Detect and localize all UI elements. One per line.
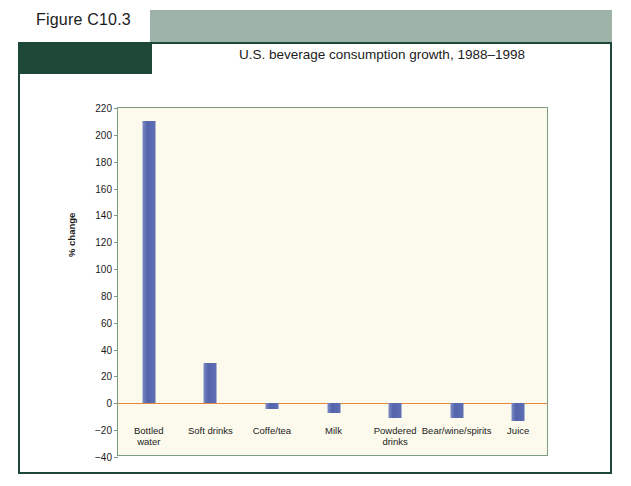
figure-label: Figure C10.3 <box>36 11 131 29</box>
y-axis-tick-label: 160 <box>72 183 112 194</box>
y-axis-tick-label: 180 <box>72 156 112 167</box>
plot-area: 220200180160140120100806040200−20−40Bott… <box>117 107 548 456</box>
y-axis-tick-mark <box>114 376 118 377</box>
y-axis-tick-mark <box>114 296 118 297</box>
bar <box>265 403 278 408</box>
bar <box>142 121 155 403</box>
y-axis-tick-label: −40 <box>72 452 112 463</box>
header-accent-bar <box>150 10 612 42</box>
y-axis-tick-mark <box>114 189 118 190</box>
y-axis-tick-label: −20 <box>72 425 112 436</box>
y-axis-tick-mark <box>114 162 118 163</box>
y-axis-tick-label: 0 <box>72 398 112 409</box>
y-axis-tick-label: 20 <box>72 371 112 382</box>
y-axis-tick-label: 80 <box>72 290 112 301</box>
y-axis-tick-label: 220 <box>72 103 112 114</box>
y-axis-tick-mark <box>114 323 118 324</box>
y-axis-tick-mark <box>114 242 118 243</box>
y-axis-tick-label: 100 <box>72 264 112 275</box>
x-axis-category-label: Juice <box>477 425 559 436</box>
y-axis-tick-mark <box>114 215 118 216</box>
y-axis-tick-label: 60 <box>72 317 112 328</box>
frame-mask <box>19 43 152 74</box>
chart-title: U.S. beverage consumption growth, 1988–1… <box>152 47 612 62</box>
y-axis-tick-label: 120 <box>72 237 112 248</box>
bar <box>389 403 402 418</box>
y-axis-tick-mark <box>114 135 118 136</box>
bar <box>204 363 217 403</box>
y-axis-tick-mark <box>114 457 118 458</box>
y-axis-tick-mark <box>114 269 118 270</box>
y-axis-tick-label: 140 <box>72 210 112 221</box>
y-axis-tick-label: 40 <box>72 344 112 355</box>
y-axis-tick-label: 200 <box>72 129 112 140</box>
bar <box>512 403 525 420</box>
bar <box>450 403 463 418</box>
y-axis-tick-mark <box>114 108 118 109</box>
y-axis-tick-mark <box>114 350 118 351</box>
bar <box>327 403 340 412</box>
